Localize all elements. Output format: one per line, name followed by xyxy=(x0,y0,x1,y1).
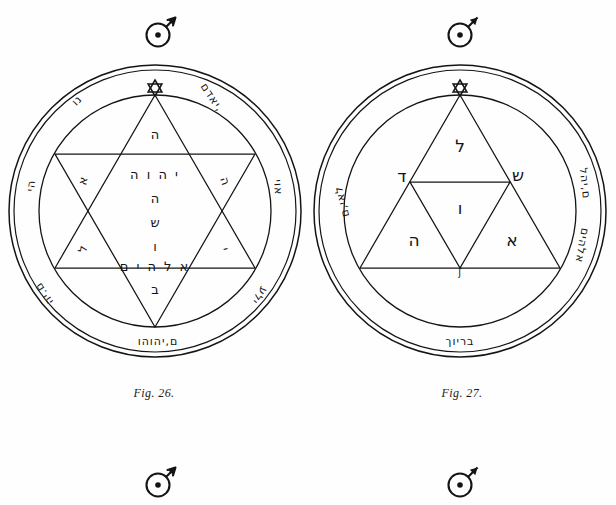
hexagram-icon-apex-26 xyxy=(148,80,162,96)
triangle-letter-lower-left-27: ה xyxy=(400,232,428,249)
figure-27-caption: Fig. 27. xyxy=(308,386,616,401)
triangle-letter-lower-right-27: א xyxy=(498,232,526,249)
center-elohim-26: א ל ה י ם xyxy=(110,260,200,273)
mars-symbol-top-26 xyxy=(147,18,176,47)
figure-27-group: ל ד ש ו ה א ʃ לאי,ם ם,יהל אלהים בריוך Fi… xyxy=(308,0,616,505)
center-letter-1-26: ה xyxy=(115,128,195,141)
inner-inverted-triangle-27 xyxy=(410,182,510,268)
ring-inscription-bottom-27: בריוך xyxy=(420,336,500,347)
center-letter-7-26: ב xyxy=(115,283,195,296)
figure-26-caption: Fig. 26. xyxy=(0,386,308,401)
triangle-letter-left-27: ד xyxy=(388,168,416,185)
ring-inscription-bottom-26: ם,יהוהו xyxy=(112,336,204,347)
center-tetragrammaton-26: י ה ו ה xyxy=(110,168,200,181)
mars-symbol-top-27 xyxy=(449,18,478,47)
center-letter-5-26: ו xyxy=(115,240,195,253)
mars-symbol-bottom-26 xyxy=(147,468,176,497)
triangle-letter-center-27: ו xyxy=(446,200,474,217)
triangle-base-mark-27: ʃ xyxy=(448,268,472,278)
figure-26-group: ה י ה ו ה ה ש ו א ל ה י ם ב א ל ה י נו י… xyxy=(0,0,308,505)
hexagram-icon-apex-27 xyxy=(453,80,467,96)
triangle-letter-top-27: ל xyxy=(444,138,476,155)
figure-27-drawing xyxy=(308,0,616,505)
center-letter-4-26: ש xyxy=(115,216,195,229)
engraving-plate: ה י ה ו ה ה ש ו א ל ה י ם ב א ל ה י נו י… xyxy=(0,0,616,505)
center-letter-3-26: ה xyxy=(115,192,195,205)
triangle-letter-right-27: ש xyxy=(504,167,532,184)
mars-symbol-bottom-27 xyxy=(449,468,478,497)
